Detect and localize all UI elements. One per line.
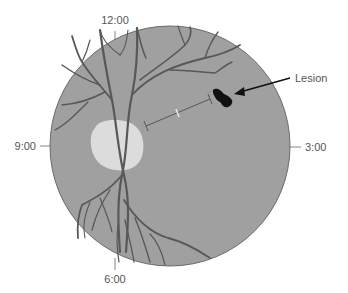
- label-3: 3:00: [305, 141, 326, 153]
- label-6: 6:00: [104, 273, 125, 285]
- lesion-label: Lesion: [295, 72, 327, 84]
- label-12: 12:00: [101, 14, 129, 26]
- label-9: 9:00: [15, 140, 36, 152]
- fundus-circle: [50, 26, 290, 266]
- fundus-diagram: 12:00 3:00 6:00 9:00 Lesion: [0, 0, 348, 293]
